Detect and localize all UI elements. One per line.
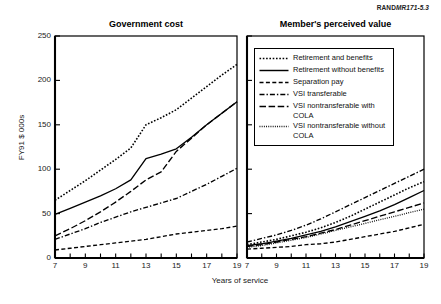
x-tick-label: 13 — [328, 261, 344, 270]
x-tick-label: 13 — [138, 261, 154, 270]
x-tick-label: 11 — [108, 261, 124, 270]
legend-swatch-retirement-and-benefits — [259, 53, 289, 64]
x-tick-label: 11 — [298, 261, 314, 270]
x-tick-label: 9 — [269, 261, 285, 270]
legend-item-separation-pay[interactable]: Separation pay — [259, 77, 389, 88]
legend-swatch-vsi-nontransferable-with-cola — [259, 101, 289, 112]
series-line — [55, 64, 237, 200]
x-tick-label: 17 — [387, 261, 403, 270]
legend-item-retirement-without-benefits[interactable]: Retirement without benefits — [259, 65, 389, 76]
legend: Retirement and benefitsRetirement withou… — [254, 48, 394, 146]
legend-item-retirement-and-benefits[interactable]: Retirement and benefits — [259, 53, 389, 64]
y-tick-label: 250 — [25, 31, 51, 40]
x-tick-label: 15 — [168, 261, 184, 270]
legend-label: VSI nontransferable without COLA — [293, 121, 389, 140]
legend-label: VSI nontransferable with COLA — [293, 101, 389, 120]
series-line — [55, 102, 237, 236]
legend-item-vsi-nontransferable-with-cola[interactable]: VSI nontransferable with COLA — [259, 101, 389, 120]
figure-container: RANDMR171-5.3 Government cost Member's p… — [0, 0, 441, 304]
y-tick-label: 200 — [25, 75, 51, 84]
legend-rows: Retirement and benefitsRetirement withou… — [259, 53, 389, 140]
plot-frame — [55, 36, 237, 258]
legend-swatch-vsi-transferable — [259, 89, 289, 100]
x-tick-label: 9 — [77, 261, 93, 270]
legend-label: Retirement without benefits — [293, 65, 384, 75]
x-tick-label: 15 — [357, 261, 373, 270]
x-tick-label: 7 — [239, 261, 255, 270]
legend-item-vsi-nontransferable-without-cola[interactable]: VSI nontransferable without COLA — [259, 121, 389, 140]
series-line — [55, 102, 237, 215]
legend-item-vsi-transferable[interactable]: VSI transferable — [259, 89, 389, 100]
x-tick-label: 7 — [47, 261, 63, 270]
y-tick-label: 100 — [25, 164, 51, 173]
series-line — [247, 224, 424, 249]
chart-canvas — [0, 0, 441, 304]
legend-swatch-vsi-nontransferable-without-cola — [259, 121, 289, 132]
y-tick-label: 50 — [25, 209, 51, 218]
panel-government-cost — [55, 36, 237, 258]
x-tick-label: 17 — [199, 261, 215, 270]
series-line — [247, 169, 424, 242]
series-line — [247, 191, 424, 246]
legend-swatch-separation-pay — [259, 77, 289, 88]
series-line — [247, 182, 424, 245]
legend-label: Retirement and benefits — [293, 53, 373, 63]
y-tick-label: 150 — [25, 120, 51, 129]
x-tick-label: 19 — [416, 261, 432, 270]
legend-swatch-retirement-without-benefits — [259, 65, 289, 76]
legend-label: Separation pay — [293, 77, 343, 87]
legend-label: VSI transferable — [293, 89, 347, 99]
